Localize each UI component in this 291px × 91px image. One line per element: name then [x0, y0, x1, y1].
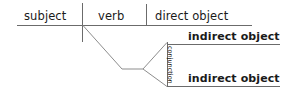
label-conjunction: conjunction [167, 46, 174, 84]
label-indirect-object-1: indirect object [188, 31, 280, 42]
fork-lower-line [143, 69, 167, 87]
label-indirect-object-2: indirect object [188, 73, 280, 84]
fork-upper-line [143, 43, 167, 70]
label-direct-object: direct object [155, 11, 228, 23]
sentence-diagram: subject verb direct object indirect obje… [0, 0, 291, 91]
label-verb: verb [98, 11, 124, 23]
prepositional-descender-line [83, 26, 122, 70]
label-subject: subject [24, 11, 66, 23]
